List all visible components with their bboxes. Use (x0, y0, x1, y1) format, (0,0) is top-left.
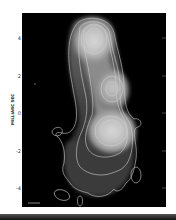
y-tick: 0 (14, 111, 21, 116)
y-tick: -4 (14, 186, 21, 191)
y-axis-label: MILLIARC SEC (10, 95, 15, 125)
image-panel (22, 13, 166, 207)
y-tick: 2 (14, 74, 21, 79)
bottom-border (0, 214, 176, 220)
y-tick: 4 (14, 36, 21, 41)
y-tick: -2 (14, 149, 21, 154)
right-ticks (162, 38, 166, 188)
noise-speck (34, 83, 35, 84)
source-map (22, 13, 166, 207)
